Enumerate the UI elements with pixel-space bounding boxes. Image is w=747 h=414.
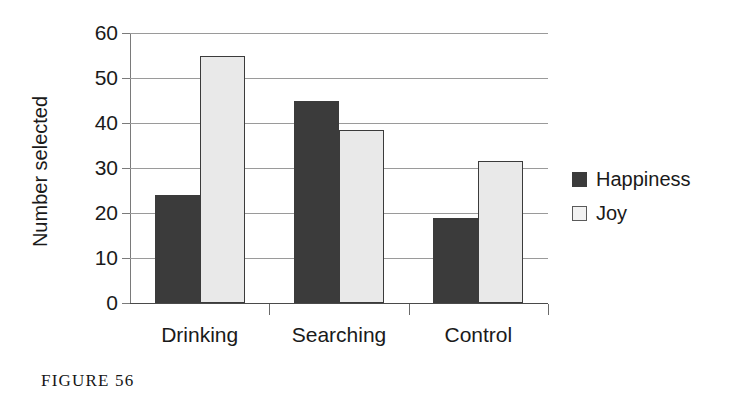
y-axis-tick-label: 50 <box>72 67 118 88</box>
bar-drinking-happiness <box>155 195 200 303</box>
y-axis-tick-mark <box>122 258 130 259</box>
y-axis-tick-label: 60 <box>72 22 118 43</box>
y-axis-tick-label: 0 <box>72 292 118 313</box>
legend-entry-joy: Joy <box>572 198 691 228</box>
plot-area <box>130 33 548 303</box>
y-axis-tick-mark <box>122 78 130 79</box>
x-axis-tick-label-searching: Searching <box>269 322 408 348</box>
figure-container: Number selected 0102030405060 DrinkingSe… <box>0 0 747 414</box>
y-axis-tick-mark <box>122 33 130 34</box>
x-axis-category-tick <box>548 304 549 315</box>
gridline <box>130 33 548 34</box>
y-axis-tick-label: 10 <box>72 247 118 268</box>
gridline <box>130 123 548 124</box>
x-axis-tick-label-control: Control <box>409 322 548 348</box>
bar-searching-happiness <box>294 101 339 304</box>
chart-legend: HappinessJoy <box>572 164 691 232</box>
y-axis-title: Number selected <box>29 52 52 292</box>
y-axis-tick-label: 40 <box>72 112 118 133</box>
legend-entry-happiness: Happiness <box>572 164 691 194</box>
y-axis-tick-mark <box>122 213 130 214</box>
legend-label: Joy <box>596 203 627 223</box>
legend-swatch-icon <box>572 206 587 221</box>
legend-label: Happiness <box>596 169 691 189</box>
x-axis-category-tick <box>409 304 410 315</box>
x-axis-line <box>130 303 548 304</box>
bar-control-joy <box>478 161 523 303</box>
x-axis-tick-labels: DrinkingSearchingControl <box>130 322 548 356</box>
bar-searching-joy <box>339 130 384 303</box>
y-axis-tick-labels: 0102030405060 <box>62 0 118 414</box>
x-axis-category-tick <box>269 304 270 315</box>
y-axis-tick-label: 20 <box>72 202 118 223</box>
bar-drinking-joy <box>200 56 245 304</box>
figure-caption: FIGURE 56 <box>41 371 134 391</box>
x-axis-tick-label-drinking: Drinking <box>130 322 269 348</box>
y-axis-tick-mark <box>122 168 130 169</box>
bar-control-happiness <box>433 218 478 304</box>
y-axis-tick-mark <box>122 123 130 124</box>
y-axis-tick-label: 30 <box>72 157 118 178</box>
y-axis-tick-mark <box>122 303 130 304</box>
gridline <box>130 78 548 79</box>
legend-swatch-icon <box>572 172 587 187</box>
